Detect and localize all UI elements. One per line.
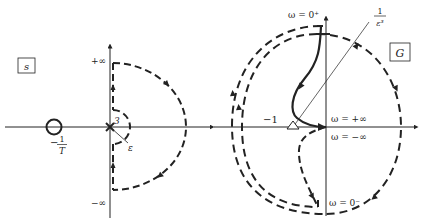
epsilon-label: ε bbox=[128, 143, 133, 153]
g-plane-label: G bbox=[396, 47, 405, 60]
pole-multiplicity-label: 3 bbox=[114, 116, 120, 126]
svg-text:1: 1 bbox=[59, 135, 64, 144]
radius-line bbox=[293, 22, 369, 127]
s-minus-inf-label: −∞ bbox=[91, 198, 106, 208]
s-contour-arrow-lower bbox=[111, 162, 116, 168]
s-contour-arrow-up bbox=[111, 84, 116, 90]
s-plus-inf-label: +∞ bbox=[91, 56, 106, 66]
g-nyquist-curve-positive bbox=[292, 26, 326, 127]
s-plane-panel: s +∞ −∞ 3 ε − 1 T bbox=[5, 46, 212, 218]
g-arrow-left-inner bbox=[235, 104, 242, 111]
g-large-dashed-contour bbox=[232, 26, 401, 214]
g-plane-panel: G 1 ε³ bbox=[214, 7, 416, 216]
omega-zero-minus-label: ω = 0⁻ bbox=[329, 198, 360, 208]
omega-plus-inf-label: ω = +∞ bbox=[331, 114, 367, 124]
g-arrow-right-lower bbox=[369, 194, 377, 202]
critical-point-label: −1 bbox=[263, 114, 278, 125]
g-arrow-at-origin bbox=[318, 123, 326, 131]
svg-text:−: − bbox=[50, 137, 58, 148]
zero-label: − 1 T bbox=[50, 135, 67, 156]
omega-zero-plus-label: ω = 0⁺ bbox=[288, 10, 319, 20]
omega-minus-inf-label: ω = −∞ bbox=[331, 132, 367, 142]
radius-label: 1 ε³ bbox=[374, 7, 386, 28]
svg-text:1: 1 bbox=[377, 7, 382, 16]
critical-point-triangle-icon bbox=[287, 121, 299, 129]
s-plane-label: s bbox=[24, 61, 29, 72]
nyquist-diagram: s +∞ −∞ 3 ε − 1 T bbox=[0, 0, 426, 224]
svg-text:T: T bbox=[59, 146, 66, 156]
epsilon-radius-line bbox=[110, 127, 128, 143]
svg-text:ε³: ε³ bbox=[376, 19, 384, 28]
